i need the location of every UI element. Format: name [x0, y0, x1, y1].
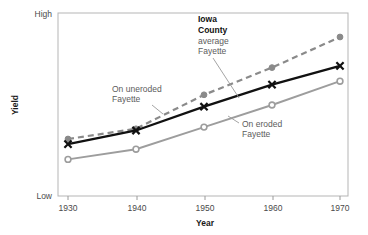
- data-point-marker: [269, 102, 275, 108]
- data-point-marker: [337, 34, 343, 40]
- annotation-uneroded-line2: Fayette: [112, 94, 141, 104]
- x-tick-label-1960: 1960: [264, 203, 283, 213]
- y-axis-low-label: Low: [36, 191, 52, 201]
- data-point-marker: [269, 65, 275, 71]
- yield-vs-year-line-chart: High Low Yield 1930 1940 1950 1960 1970 …: [0, 0, 368, 235]
- annotation-uneroded-line1: On uneroded: [112, 84, 162, 94]
- annotation-iowa-sub2: Fayette: [198, 46, 227, 56]
- annotation-iowa-line1: Iowa: [198, 14, 217, 24]
- data-point-marker: [133, 146, 139, 152]
- data-point-marker: [201, 124, 207, 130]
- x-tick-label-1930: 1930: [59, 203, 78, 213]
- y-axis-high-label: High: [35, 9, 53, 19]
- x-tick-label-1950: 1950: [196, 203, 215, 213]
- annotation-eroded-line1: On eroded: [242, 119, 282, 129]
- data-point-marker: [337, 78, 343, 84]
- x-axis-title: Year: [196, 218, 215, 228]
- x-tick-label-1970: 1970: [331, 203, 350, 213]
- annotation-iowa-line2: County: [198, 25, 228, 35]
- x-axis-ticks: [68, 196, 340, 200]
- data-point-marker: [65, 157, 71, 163]
- x-tick-label-1940: 1940: [128, 203, 147, 213]
- y-axis-title: Yield: [10, 95, 20, 115]
- annotation-iowa-sub1: average: [198, 36, 229, 46]
- chart-container: High Low Yield 1930 1940 1950 1960 1970 …: [0, 0, 368, 235]
- data-point-marker: [201, 92, 207, 98]
- annotation-eroded-line2: Fayette: [242, 129, 271, 139]
